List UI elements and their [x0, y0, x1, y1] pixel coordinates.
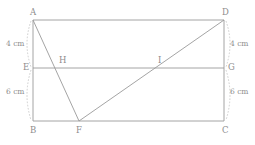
dimension-label-eb: 6 cm [6, 88, 24, 96]
figure-canvas [0, 0, 255, 145]
brace-eb [27, 70, 31, 120]
vertex-label-g: G [228, 63, 235, 72]
brace-ae [27, 21, 31, 67]
segment-fd [79, 20, 224, 121]
vertex-label-f: F [76, 126, 82, 135]
dimension-label-gc: 6 cm [230, 88, 248, 96]
segment-af [33, 20, 79, 121]
vertex-label-c: C [222, 126, 229, 135]
vertex-label-d: D [222, 8, 229, 17]
geometry-diagram: A D E G H I B F C 4 cm 4 cm 6 cm 6 cm [0, 0, 255, 145]
vertex-label-i: I [158, 56, 162, 65]
vertex-label-a: A [30, 8, 36, 17]
dimension-label-dg: 4 cm [230, 40, 248, 48]
vertex-label-h: H [59, 56, 67, 65]
dimension-label-ae: 4 cm [6, 40, 24, 48]
vertex-label-e: E [23, 63, 29, 72]
vertex-label-b: B [30, 126, 36, 135]
